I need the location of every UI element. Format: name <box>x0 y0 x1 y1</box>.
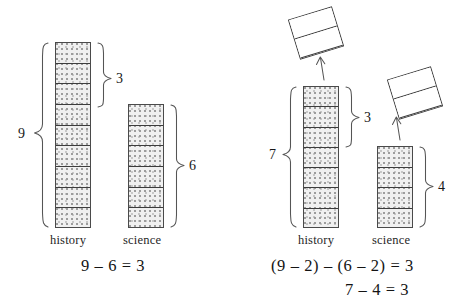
brace-right-history-7 <box>283 87 296 227</box>
bar-segment <box>56 208 90 229</box>
bar-segment <box>129 126 163 147</box>
bar-segment <box>56 64 90 85</box>
bar-segment <box>378 209 412 230</box>
bar-segment <box>56 105 90 126</box>
left-brace-science-number: 6 <box>189 158 196 174</box>
figure-canvas: 9 3 6 history science 9 – 6 = 3 7 3 4 hi… <box>0 0 473 307</box>
bar-segment <box>378 168 412 189</box>
brace-left-diff-3 <box>98 43 111 107</box>
removed-history-tile <box>288 6 344 60</box>
right-science-bar <box>377 146 413 228</box>
brace-right-diff-3 <box>346 87 359 147</box>
left-science-bar <box>128 104 164 228</box>
right-science-label: science <box>372 233 410 248</box>
arrow-history-removed-head <box>317 57 325 65</box>
bar-segment <box>56 126 90 147</box>
arrow-science-removed <box>397 118 401 140</box>
brace-left-history-9 <box>35 43 49 227</box>
bar-segment <box>304 87 338 107</box>
bar-segment <box>378 188 412 209</box>
bar-segment <box>129 208 163 229</box>
bar-segment <box>378 147 412 168</box>
bar-segment <box>56 167 90 188</box>
right-brace-diff-number: 3 <box>364 110 371 126</box>
right-brace-science-number: 4 <box>438 179 445 195</box>
bar-segment <box>129 146 163 167</box>
bar-segment <box>56 43 90 64</box>
left-history-label: history <box>50 233 86 248</box>
bar-segment <box>129 188 163 209</box>
right-brace-total-number: 7 <box>269 147 276 163</box>
bar-segment <box>304 188 338 208</box>
bar-segment <box>56 84 90 105</box>
left-history-bar <box>55 42 91 228</box>
right-equation-1: (9 – 2) – (6 – 2) = 3 <box>271 256 414 276</box>
clipped-header-text <box>62 0 222 4</box>
removed-science-tile <box>387 66 443 120</box>
bar-segment <box>304 128 338 148</box>
right-history-bar <box>303 86 339 228</box>
left-brace-total-number: 9 <box>18 126 25 142</box>
bar-segment <box>129 167 163 188</box>
left-brace-diff-number: 3 <box>116 71 123 87</box>
bar-segment <box>129 105 163 126</box>
brace-left-science-6 <box>171 105 184 227</box>
bar-segment <box>304 168 338 188</box>
bar-segment <box>304 107 338 127</box>
left-science-label: science <box>123 233 161 248</box>
bar-segment <box>56 188 90 209</box>
right-history-label: history <box>298 233 334 248</box>
arrow-history-removed <box>321 58 325 80</box>
right-equation-2: 7 – 4 = 3 <box>345 280 409 300</box>
brace-right-science-4 <box>420 147 433 227</box>
bar-segment <box>56 146 90 167</box>
bar-segment <box>304 209 338 229</box>
left-equation: 9 – 6 = 3 <box>81 256 145 276</box>
bar-segment <box>304 148 338 168</box>
